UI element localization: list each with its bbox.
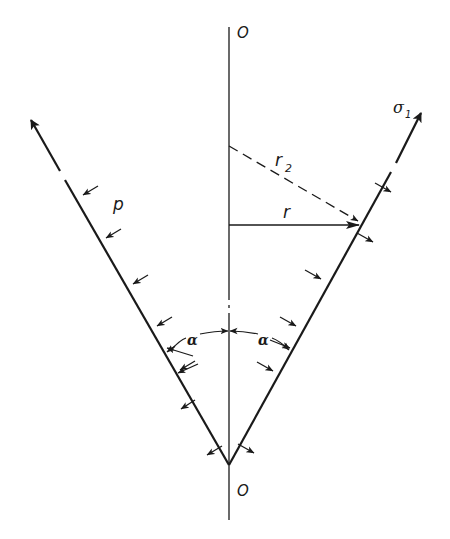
label-alpha-left: α <box>187 332 198 348</box>
label-bottom-origin: O <box>237 482 249 500</box>
label-r2: r <box>275 150 283 170</box>
label-r: r <box>283 202 291 222</box>
radius-2-dashed-line <box>229 146 358 221</box>
label-sigma-sub: 1 <box>405 109 411 120</box>
label-alpha-right: α <box>258 332 269 348</box>
label-r2-sub: 2 <box>285 162 292 175</box>
angle-arc-left <box>171 331 228 350</box>
pressure-arrows-right <box>238 183 391 453</box>
left-cone-line <box>31 120 229 465</box>
label-top-origin: O <box>237 24 249 42</box>
label-p: p <box>112 194 124 214</box>
right-cone-line <box>229 113 421 465</box>
label-sigma: σ <box>393 98 405 117</box>
cone-diagram: O O σ 1 r 2 r p α α <box>0 0 450 539</box>
